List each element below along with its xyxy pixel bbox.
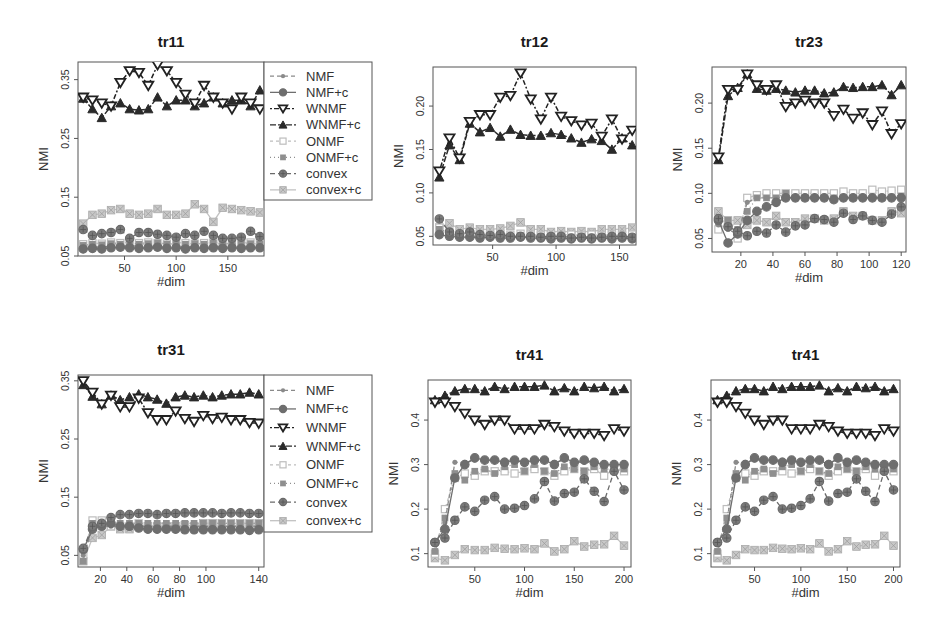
data-point-marker xyxy=(868,194,876,202)
y-tick-label: 0.05 xyxy=(414,226,426,247)
data-point-marker xyxy=(461,460,469,468)
data-point-marker xyxy=(824,460,832,468)
x-tick-label: 60 xyxy=(147,573,159,585)
data-point-marker xyxy=(560,454,568,462)
data-point-marker xyxy=(529,425,539,433)
data-point-marker xyxy=(888,427,898,435)
legend-label: ONMF+c xyxy=(306,150,359,165)
data-point-marker xyxy=(589,430,599,438)
data-point-marker xyxy=(782,194,790,202)
data-point-marker xyxy=(256,244,264,252)
data-point-marker xyxy=(255,86,264,94)
data-point-marker xyxy=(180,415,190,423)
data-point-marker xyxy=(570,458,578,466)
data-point-marker xyxy=(570,387,579,395)
data-point-marker xyxy=(485,111,495,119)
x-tick-label: 50 xyxy=(748,573,760,585)
y-tick-label: 0.25 xyxy=(59,128,71,149)
chart-title: tr41 xyxy=(792,346,820,363)
plot-frame xyxy=(78,62,264,256)
data-point-marker xyxy=(153,93,162,101)
x-tick-label: 100 xyxy=(860,258,878,270)
data-point-marker xyxy=(226,416,236,424)
data-point-marker xyxy=(217,391,226,399)
chart-title: tr11 xyxy=(158,33,185,50)
data-point-marker xyxy=(490,456,498,464)
data-point-marker xyxy=(546,128,555,136)
x-tick-label: 100 xyxy=(197,573,215,585)
x-tick-label: 40 xyxy=(121,573,133,585)
data-point-marker xyxy=(788,470,795,477)
data-point-marker xyxy=(839,194,847,202)
data-point-marker xyxy=(536,115,546,123)
chart-panel-tr41: tr41501001502000.10.20.30.4#dimNMI xyxy=(669,346,903,600)
figure-canvas: tr11501001500.050.150.250.35#dimNMINMFNM… xyxy=(0,0,950,631)
series-convex-plus-c xyxy=(431,532,628,564)
legend-label: ONMF xyxy=(306,134,344,149)
data-point-marker xyxy=(849,194,857,202)
x-axis-label: #dim xyxy=(157,274,185,289)
y-axis-label: NMI xyxy=(391,144,406,168)
legend-label: NMF+c xyxy=(306,401,349,416)
data-point-marker xyxy=(153,525,161,533)
data-point-marker xyxy=(481,466,488,473)
data-point-marker xyxy=(607,115,617,123)
data-point-marker xyxy=(254,420,264,428)
data-point-marker xyxy=(852,382,861,390)
data-point-marker xyxy=(280,138,286,144)
data-point-marker xyxy=(144,525,152,533)
x-tick-label: 80 xyxy=(173,573,185,585)
data-point-marker xyxy=(116,243,124,251)
data-point-marker xyxy=(853,468,860,475)
y-tick-label: 0.25 xyxy=(59,429,71,450)
data-point-marker xyxy=(510,456,518,464)
legend: NMFNMF+cWNMFWNMF+cONMFONMF+cconvexconvex… xyxy=(264,375,372,532)
y-tick-label: 0.2 xyxy=(692,502,704,517)
data-point-marker xyxy=(897,194,905,202)
data-point-marker xyxy=(825,470,832,477)
data-point-marker xyxy=(550,460,558,468)
data-point-marker xyxy=(280,481,286,487)
y-tick-label: 0.4 xyxy=(692,413,704,428)
chart-panel-tr23: tr23204060801001200.050.100.150.20#dimNM… xyxy=(670,33,910,285)
legend-label: WNMF xyxy=(306,101,346,116)
x-axis-label: #dim xyxy=(795,270,823,285)
y-tick-label: 0.3 xyxy=(692,457,704,472)
data-point-marker xyxy=(898,186,905,193)
x-tick-label: 200 xyxy=(615,573,633,585)
data-point-marker xyxy=(750,454,758,462)
data-point-marker xyxy=(198,412,208,420)
data-point-marker xyxy=(889,460,897,468)
data-point-marker xyxy=(245,526,253,534)
data-point-marker xyxy=(125,522,133,530)
legend-label: ONMF xyxy=(306,457,344,472)
data-point-marker xyxy=(526,95,536,103)
data-point-marker xyxy=(279,405,286,412)
data-point-marker xyxy=(733,460,738,465)
data-point-marker xyxy=(510,425,520,433)
data-point-marker xyxy=(877,80,886,88)
data-point-marker xyxy=(760,466,767,473)
data-point-marker xyxy=(80,558,87,565)
legend-label: convex+c xyxy=(306,513,362,528)
data-point-marker xyxy=(143,82,153,90)
legend-label: ONMF+c xyxy=(306,476,359,491)
data-point-marker xyxy=(98,245,106,253)
x-tick-label: 150 xyxy=(219,262,237,274)
data-point-marker xyxy=(870,382,879,390)
data-point-marker xyxy=(539,421,549,429)
data-point-marker xyxy=(760,456,768,464)
data-point-marker xyxy=(162,399,171,407)
y-tick-label: 0.15 xyxy=(59,187,71,208)
data-point-marker xyxy=(887,194,895,202)
data-point-marker xyxy=(432,548,439,555)
data-point-marker xyxy=(861,430,871,438)
data-point-marker xyxy=(742,470,749,477)
data-point-marker xyxy=(475,111,485,119)
series-wnmf xyxy=(434,69,637,176)
series-nmf-plus-c xyxy=(713,454,897,547)
data-point-marker xyxy=(815,456,823,464)
data-point-marker xyxy=(778,458,786,466)
data-point-marker xyxy=(781,103,791,111)
data-point-marker xyxy=(162,525,170,533)
